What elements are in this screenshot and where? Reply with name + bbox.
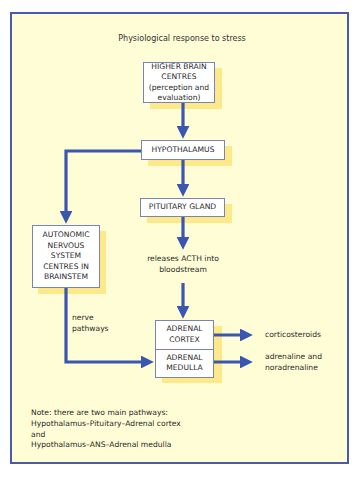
note-line: Hypothalamus–Pituitary–Adrenal cortex bbox=[31, 419, 181, 430]
box-line: CENTRES bbox=[161, 72, 196, 83]
label-line: nerve bbox=[72, 313, 109, 324]
nerve-pathways-label: nerve pathways bbox=[72, 313, 109, 334]
box-line: evaluation) bbox=[158, 93, 201, 104]
box-line: CENTRES IN bbox=[43, 262, 89, 273]
box-line: PITUITARY GLAND bbox=[149, 202, 216, 213]
adrenal-cortex-section: ADRENAL CORTEX bbox=[156, 321, 213, 350]
note-line: Note: there are two main pathways: bbox=[31, 408, 181, 419]
adrenal-box: ADRENAL CORTEX ADRENAL MEDULLA bbox=[155, 320, 214, 378]
label-line: bloodstream bbox=[140, 265, 226, 276]
label-line: pathways bbox=[72, 324, 109, 335]
note-line: and bbox=[31, 430, 181, 441]
box-line: BRAINSTEM bbox=[44, 272, 88, 283]
corticosteroids-label: corticosteroids bbox=[265, 330, 321, 341]
box-line: SYSTEM bbox=[51, 251, 81, 262]
box-line: CORTEX bbox=[156, 335, 213, 346]
hypothalamus-box: HYPOTHALAMUS bbox=[141, 140, 225, 160]
adrenal-medulla-section: ADRENAL MEDULLA bbox=[156, 350, 213, 378]
acth-label: releases ACTH into bloodstream bbox=[140, 254, 226, 275]
note-line: Hypothalamus–ANS–Adrenal medulla bbox=[31, 440, 181, 451]
higher-brain-centres-box: HIGHER BRAIN CENTRES (perception and eva… bbox=[143, 62, 215, 103]
adrenaline-label: adrenaline and noradrenaline bbox=[265, 352, 322, 373]
label-line: adrenaline and bbox=[265, 352, 322, 363]
pituitary-gland-box: PITUITARY GLAND bbox=[140, 198, 225, 217]
label-line: releases ACTH into bbox=[140, 254, 226, 265]
box-line: AUTONOMIC bbox=[42, 230, 89, 241]
label-line: noradrenaline bbox=[265, 363, 322, 374]
box-line: HYPOTHALAMUS bbox=[152, 145, 215, 156]
box-line: (perception and bbox=[149, 83, 209, 94]
ans-centres-box: AUTONOMIC NERVOUS SYSTEM CENTRES IN BRAI… bbox=[32, 225, 100, 288]
box-line: ADRENAL bbox=[156, 353, 213, 364]
box-line: MEDULLA bbox=[156, 363, 213, 374]
box-line: ADRENAL bbox=[156, 324, 213, 335]
box-line: HIGHER BRAIN bbox=[151, 62, 206, 73]
box-line: NERVOUS bbox=[48, 241, 85, 252]
note-text: Note: there are two main pathways: Hypot… bbox=[31, 408, 181, 451]
label-line: corticosteroids bbox=[265, 330, 321, 341]
